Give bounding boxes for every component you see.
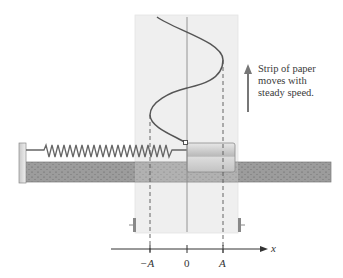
caption-line: moves with (258, 75, 316, 87)
x-axis (111, 245, 268, 253)
tick-label-zero: 0 (184, 257, 190, 269)
wall (19, 143, 26, 183)
tick-label-minus-a: −A (140, 257, 154, 269)
right-bracket (238, 218, 245, 232)
left-bracket (129, 218, 136, 232)
pen-marker (184, 141, 188, 145)
diagram-canvas (0, 0, 343, 278)
caption-line: Strip of paper (258, 63, 316, 75)
paper-motion-caption: Strip of paper moves with steady speed. (258, 63, 316, 99)
track (20, 162, 331, 182)
x-axis-label: x (271, 242, 276, 254)
mass-block (187, 143, 235, 172)
tick-label-a: A (219, 257, 226, 269)
caption-line: steady speed. (258, 87, 316, 99)
arrow-up-icon (244, 64, 252, 112)
